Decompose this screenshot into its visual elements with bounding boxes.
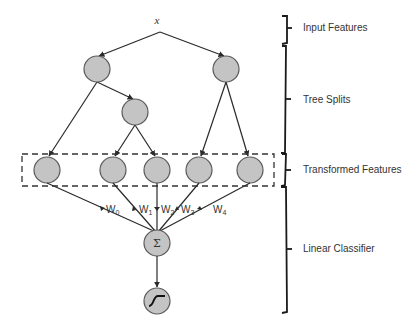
split-node-root-right [213,56,239,82]
weight-w2: W2 [161,204,174,216]
weight-w3: W3 [181,204,194,216]
layer-label-input-features: Input Features [303,22,367,33]
input-edges [99,32,224,56]
split-node-root-left [84,56,110,82]
gbdt-lr-diagram: x [0,0,420,332]
tree-edges [49,82,248,156]
input-x-label: x [154,14,160,26]
sigma-icon: Σ [153,237,161,250]
split-node-child [122,99,148,125]
layer-brackets [281,16,292,313]
weight-w0: W0 [106,204,119,216]
transformed-feature-nodes [34,157,263,183]
weight-w1: W1 [139,204,152,216]
layer-label-transformed-features: Transformed Features [303,164,402,175]
layer-label-linear-classifier: Linear Classifier [303,243,375,254]
tree-split-nodes [84,56,239,125]
weight-w4: W4 [213,204,226,216]
sigmoid-node [144,288,170,314]
layer-label-tree-splits: Tree Splits [303,94,350,105]
